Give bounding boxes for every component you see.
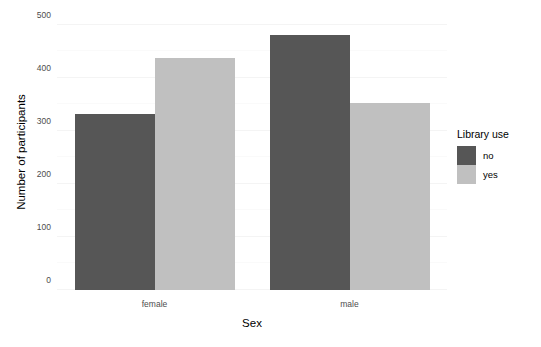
y-tick-label: 300 [5, 116, 51, 126]
legend-label-yes: yes [483, 169, 498, 181]
y-tick-label: 400 [5, 63, 51, 73]
y-tick-label: 200 [5, 169, 51, 179]
x-axis-title: Sex [57, 316, 447, 330]
legend-item-no: no [457, 146, 509, 165]
y-tick-label: 100 [5, 222, 51, 232]
gridline-major [57, 24, 447, 25]
bar-female-yes [155, 58, 235, 290]
y-tick-label: 500 [5, 10, 51, 20]
legend-swatch-yes [457, 165, 476, 184]
plot-panel [57, 14, 447, 290]
legend-label-no: no [483, 150, 494, 162]
bar-male-yes [350, 103, 430, 290]
legend: Library use noyes [457, 128, 509, 184]
legend-entries: noyes [457, 146, 509, 184]
legend-item-yes: yes [457, 165, 509, 184]
x-tick-label-female: female [142, 299, 168, 309]
y-axis-tick-labels: 0100200300400500 [0, 14, 51, 290]
legend-title: Library use [457, 128, 509, 141]
gridline-major [57, 77, 447, 78]
bar-female-no [75, 114, 155, 290]
legend-swatch-no [457, 146, 476, 165]
y-tick-label: 0 [5, 275, 51, 285]
bar-chart: Number of participants 0100200300400500 … [0, 0, 541, 347]
bar-male-no [270, 35, 350, 290]
gridline-minor [57, 50, 447, 51]
x-tick-label-male: male [340, 299, 358, 309]
